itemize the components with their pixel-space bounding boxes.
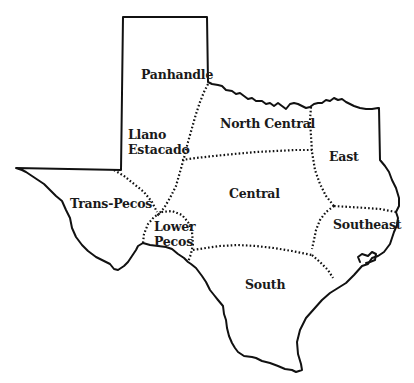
border-southeast-central [312,206,334,249]
region-label-central: Central [229,186,280,201]
region-label-south: South [245,277,285,292]
region-label-panhandle: Panhandle [141,67,213,82]
border-east-southeast [334,206,396,212]
region-label-north-central: North Central [220,116,315,131]
border-south-southeast [312,255,333,278]
region-label-trans-pecos: Trans-Pecos [70,196,152,211]
region-label-east: East [329,149,359,164]
region-label-lower-pecos: Lower Pecos [154,219,195,249]
region-label-llano-estacado: Llano Estacado [128,127,190,157]
border-north-central-central [182,150,312,160]
texas-map [0,0,414,383]
region-label-southeast: Southeast [333,217,401,232]
border-central-south [193,245,312,255]
